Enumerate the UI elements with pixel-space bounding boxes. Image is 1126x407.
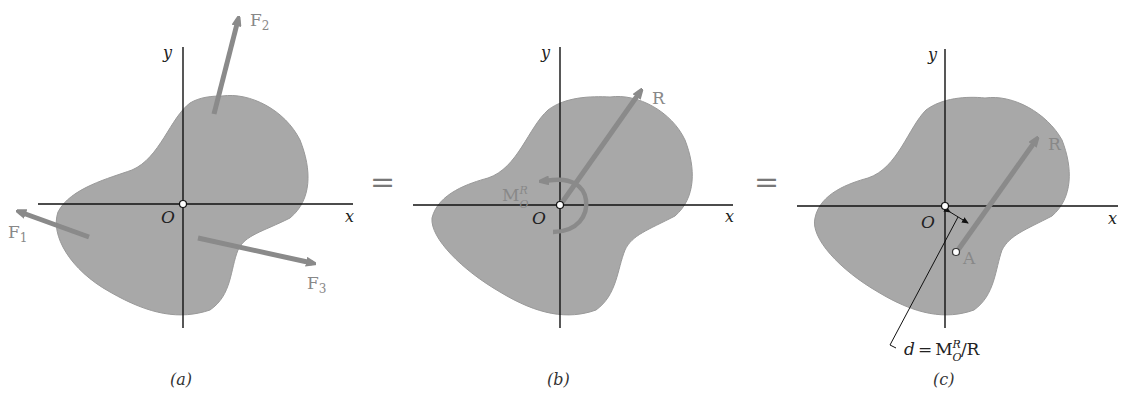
equals-sign-2: = <box>754 164 779 199</box>
caption-c: (c) <box>933 370 954 389</box>
panel-a: O x y F1 F2 F3 (a) <box>8 10 354 389</box>
x-axis-label: x <box>725 207 734 226</box>
origin-label: O <box>532 208 546 228</box>
caption-b: (b) <box>547 370 570 389</box>
origin-point <box>942 203 949 210</box>
resultant-diagram: O x y F1 F2 F3 (a) = R MOR O x y (b) = R <box>0 0 1126 407</box>
y-axis-label: y <box>162 43 173 62</box>
origin-point <box>180 201 187 208</box>
caption-a: (a) <box>170 370 192 389</box>
origin-point <box>557 202 564 209</box>
y-axis-label: y <box>927 45 938 64</box>
panel-b: R MOR O x y (b) <box>413 43 734 389</box>
force-f1-label: F1 <box>8 222 27 245</box>
origin-label: O <box>921 212 935 232</box>
origin-label: O <box>161 207 175 227</box>
x-axis-label: x <box>1108 209 1117 228</box>
resultant-label: R <box>1048 134 1062 154</box>
distance-formula: d=MOR/R <box>904 338 981 364</box>
force-f2-label: F2 <box>250 10 269 33</box>
y-axis-label: y <box>540 43 551 62</box>
panel-c: R A O x y d=MOR/R (c) <box>797 45 1118 389</box>
point-a <box>953 249 960 256</box>
x-axis-label: x <box>345 207 354 226</box>
resultant-label: R <box>652 88 666 108</box>
equals-sign-1: = <box>370 164 395 199</box>
force-f3-label: F3 <box>307 273 326 296</box>
point-a-label: A <box>962 248 976 268</box>
